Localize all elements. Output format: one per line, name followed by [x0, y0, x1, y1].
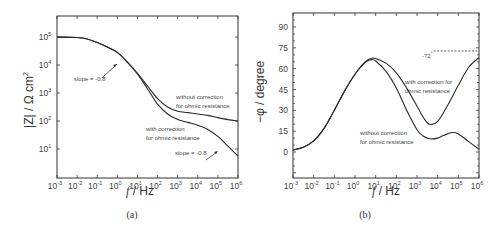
annotation-with-line1: with correction for	[404, 79, 452, 85]
x-axis-ticks-b: 10-310-210-1100101102103104105106	[284, 13, 483, 191]
caption-b: (b)	[359, 209, 371, 221]
tick-label: 15	[279, 126, 289, 136]
tick-label: 103	[409, 180, 422, 191]
curves-b	[293, 58, 479, 150]
tick-label: 45	[279, 85, 289, 95]
tick-label: 10-2	[68, 180, 82, 191]
annotation-with-line2: for ohmic resistance	[146, 135, 200, 141]
tick-label: 100	[347, 180, 360, 191]
caption-a: (a)	[126, 209, 137, 221]
tick-label: 75	[279, 43, 289, 53]
arrow-head-icon	[113, 64, 117, 67]
tick-label: 10-3	[48, 180, 62, 191]
tick-label: 10-3	[284, 180, 298, 191]
annotation-with-line1: with correction	[145, 126, 185, 132]
tick-label: 100	[109, 180, 122, 191]
tick-label: 10-1	[325, 180, 339, 191]
tick-label: 60	[279, 64, 289, 74]
y-axis-ticks-a: 101102103104105	[39, 31, 238, 154]
annotation-slope-1: slope = -0.8	[74, 76, 106, 82]
tick-label: 102	[39, 115, 52, 126]
curve-without-correction	[293, 59, 479, 149]
chart-panel-b: 10-310-210-1100101102103104105106 015304…	[253, 13, 483, 221]
tick-label: 0	[283, 147, 288, 157]
annotation-slope-2: slope = -0.8	[175, 150, 207, 156]
figure: 10-310-210-1100101102103104105106 101102…	[0, 0, 504, 228]
tick-label: 101	[39, 143, 52, 154]
tick-label: 10-1	[88, 180, 102, 191]
tick-label: 104	[429, 180, 442, 191]
annotation-without-line2: for ohmic resistance	[360, 139, 414, 145]
x-axis-title-b: f / Hz	[372, 184, 400, 198]
x-axis-title-a: f / Hz	[126, 184, 154, 198]
tick-label: 30	[279, 105, 289, 115]
tick-label: 105	[210, 180, 223, 191]
tick-label: 105	[39, 31, 52, 42]
tick-label: 90	[279, 22, 289, 32]
annotation-with-line2: ohmic resistance	[405, 88, 451, 94]
annotation-72: -72°	[422, 51, 433, 59]
tick-label: 10-2	[304, 180, 318, 191]
y-axis-title-b: −φ / degree	[253, 61, 267, 123]
tick-label: 104	[39, 59, 52, 70]
tick-label: 103	[169, 180, 182, 191]
annotation-without-line1: without correction	[175, 94, 223, 100]
tick-label: 104	[190, 180, 203, 191]
tick-label: 105	[450, 180, 463, 191]
chart-panel-a: 10-310-210-1100101102103104105106 101102…	[22, 16, 242, 221]
y-axis-ticks-b: 0153045607590	[279, 20, 479, 173]
tick-label: 106	[471, 180, 484, 191]
y-axis-title-a: |Z| / Ω cm2	[22, 72, 36, 128]
annotation-without-line1: without correction	[359, 130, 407, 136]
plot-frame-b	[293, 13, 479, 178]
annotation-without-line2: for ohmic resistance	[176, 103, 230, 109]
tick-label: 106	[230, 180, 243, 191]
tick-label: 103	[39, 87, 52, 98]
